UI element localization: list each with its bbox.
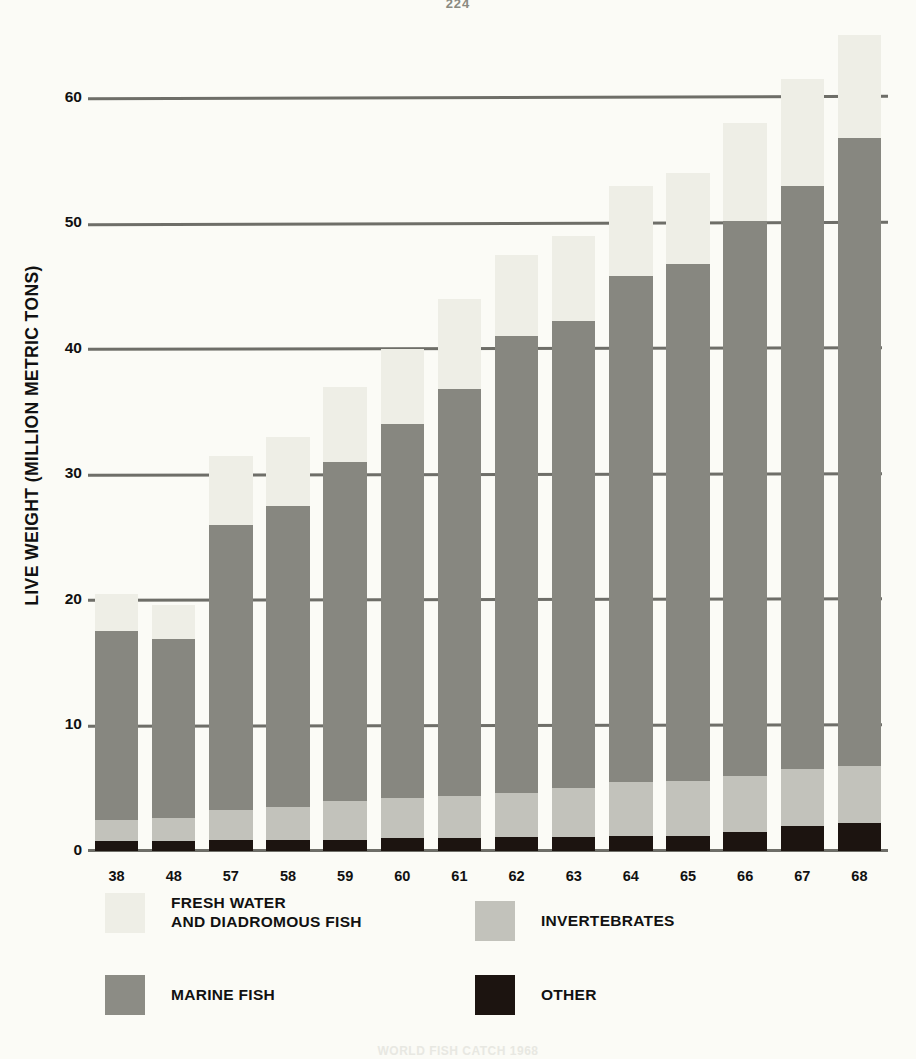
legend-item-invertebrates[interactable]: INVERTEBRATES bbox=[475, 901, 675, 941]
bar-segment-invertebrates bbox=[723, 776, 766, 832]
y-axis-tick-label: 10 bbox=[42, 716, 82, 732]
bar-segment-marine-fish bbox=[209, 525, 252, 810]
x-axis-tick-label: 48 bbox=[145, 868, 202, 884]
bar-segment-invertebrates bbox=[438, 796, 481, 839]
bar-segment-fresh-water-and-diadromous-fish bbox=[723, 123, 766, 221]
bar-segment-invertebrates bbox=[209, 810, 252, 840]
y-axis-title: LIVE WEIGHT (MILLION METRIC TONS) bbox=[22, 116, 43, 756]
bar-segment-other bbox=[666, 836, 709, 851]
bar-58[interactable] bbox=[266, 10, 309, 851]
bar-62[interactable] bbox=[495, 10, 538, 851]
bar-segment-other bbox=[323, 840, 366, 851]
bar-segment-marine-fish bbox=[609, 276, 652, 782]
bar-segment-other bbox=[781, 826, 824, 851]
y-axis-tick-label: 20 bbox=[42, 591, 82, 607]
y-axis-tick-label: 50 bbox=[42, 214, 82, 230]
x-axis-tick-label: 65 bbox=[659, 868, 716, 884]
y-axis-tick-label: 30 bbox=[42, 465, 82, 481]
y-axis-tick-label: 60 bbox=[42, 89, 82, 105]
bar-segment-invertebrates bbox=[609, 782, 652, 836]
chart-legend: FRESH WATER AND DIADROMOUS FISH INVERTEB… bbox=[105, 893, 825, 1033]
bar-48[interactable] bbox=[152, 10, 195, 851]
bar-segment-marine-fish bbox=[495, 336, 538, 793]
x-axis-tick-label: 60 bbox=[374, 868, 431, 884]
bar-segment-marine-fish bbox=[381, 424, 424, 798]
x-axis-tick-label: 68 bbox=[831, 868, 888, 884]
bar-segment-marine-fish bbox=[152, 639, 195, 818]
bar-segment-marine-fish bbox=[266, 506, 309, 807]
bar-segment-fresh-water-and-diadromous-fish bbox=[266, 437, 309, 506]
bar-segment-fresh-water-and-diadromous-fish bbox=[152, 605, 195, 639]
bar-66[interactable] bbox=[723, 10, 766, 851]
y-axis-tick-label: 40 bbox=[42, 340, 82, 356]
bar-segment-other bbox=[209, 840, 252, 851]
bar-segment-marine-fish bbox=[838, 138, 881, 766]
x-axis-tick-label: 62 bbox=[488, 868, 545, 884]
legend-label-fresh-water: FRESH WATER AND DIADROMOUS FISH bbox=[171, 894, 362, 932]
bar-segment-invertebrates bbox=[781, 769, 824, 825]
x-axis-tick-label: 64 bbox=[602, 868, 659, 884]
bar-segment-fresh-water-and-diadromous-fish bbox=[209, 456, 252, 525]
bar-segment-fresh-water-and-diadromous-fish bbox=[438, 299, 481, 389]
bar-segment-other bbox=[552, 837, 595, 851]
stacked-bar-chart: LIVE WEIGHT (MILLION METRIC TONS) 010203… bbox=[0, 0, 916, 880]
plot-area: 0102030405060384857585960616263646566676… bbox=[88, 10, 888, 851]
x-axis-tick-label: 57 bbox=[202, 868, 259, 884]
bar-segment-invertebrates bbox=[552, 788, 595, 837]
bar-segment-other bbox=[438, 838, 481, 851]
legend-item-other[interactable]: OTHER bbox=[475, 975, 597, 1015]
bar-64[interactable] bbox=[609, 10, 652, 851]
bar-60[interactable] bbox=[381, 10, 424, 851]
bar-38[interactable] bbox=[95, 10, 138, 851]
x-axis-tick-label: 63 bbox=[545, 868, 602, 884]
bar-segment-fresh-water-and-diadromous-fish bbox=[838, 35, 881, 138]
bar-segment-invertebrates bbox=[838, 766, 881, 824]
x-axis-tick-label: 66 bbox=[717, 868, 774, 884]
x-axis-baseline bbox=[88, 849, 888, 852]
bar-segment-fresh-water-and-diadromous-fish bbox=[666, 173, 709, 263]
bar-segment-fresh-water-and-diadromous-fish bbox=[609, 186, 652, 276]
bar-68[interactable] bbox=[838, 10, 881, 851]
bar-segment-fresh-water-and-diadromous-fish bbox=[781, 79, 824, 186]
legend-swatch-other-icon bbox=[475, 975, 515, 1015]
legend-item-marine-fish[interactable]: MARINE FISH bbox=[105, 975, 275, 1015]
legend-label-marine-fish: MARINE FISH bbox=[171, 986, 275, 1005]
bar-63[interactable] bbox=[552, 10, 595, 851]
bar-segment-other bbox=[381, 838, 424, 851]
bar-segment-fresh-water-and-diadromous-fish bbox=[323, 387, 366, 462]
legend-swatch-invertebrates-icon bbox=[475, 901, 515, 941]
bar-segment-invertebrates bbox=[323, 801, 366, 840]
bar-segment-marine-fish bbox=[552, 321, 595, 788]
bar-segment-marine-fish bbox=[95, 631, 138, 819]
bar-segment-invertebrates bbox=[381, 798, 424, 838]
bar-segment-fresh-water-and-diadromous-fish bbox=[95, 594, 138, 632]
legend-row: FRESH WATER AND DIADROMOUS FISH INVERTEB… bbox=[105, 893, 825, 951]
legend-item-fresh-water[interactable]: FRESH WATER AND DIADROMOUS FISH bbox=[105, 893, 362, 933]
bar-segment-fresh-water-and-diadromous-fish bbox=[495, 255, 538, 337]
bar-segment-other bbox=[495, 837, 538, 851]
bar-61[interactable] bbox=[438, 10, 481, 851]
bar-segment-other bbox=[95, 841, 138, 851]
bar-segment-invertebrates bbox=[95, 820, 138, 841]
legend-swatch-fresh-water-icon bbox=[105, 893, 145, 933]
bar-segment-invertebrates bbox=[152, 818, 195, 841]
bar-59[interactable] bbox=[323, 10, 366, 851]
bar-segment-marine-fish bbox=[781, 186, 824, 770]
bar-segment-other bbox=[266, 840, 309, 851]
bar-segment-marine-fish bbox=[438, 389, 481, 796]
bar-segment-fresh-water-and-diadromous-fish bbox=[381, 349, 424, 424]
bar-67[interactable] bbox=[781, 10, 824, 851]
legend-label-invertebrates: INVERTEBRATES bbox=[541, 912, 675, 931]
bar-segment-marine-fish bbox=[666, 264, 709, 781]
gridline-50 bbox=[88, 221, 888, 227]
x-axis-tick-label: 38 bbox=[88, 868, 145, 884]
figure-caption: WORLD FISH CATCH 1968 bbox=[0, 1044, 916, 1058]
x-axis-tick-label: 67 bbox=[774, 868, 831, 884]
bar-57[interactable] bbox=[209, 10, 252, 851]
bar-segment-other bbox=[152, 841, 195, 851]
x-axis-tick-label: 59 bbox=[317, 868, 374, 884]
bar-segment-other bbox=[838, 823, 881, 851]
bar-segment-other bbox=[723, 832, 766, 851]
bar-65[interactable] bbox=[666, 10, 709, 851]
bar-segment-fresh-water-and-diadromous-fish bbox=[552, 236, 595, 321]
